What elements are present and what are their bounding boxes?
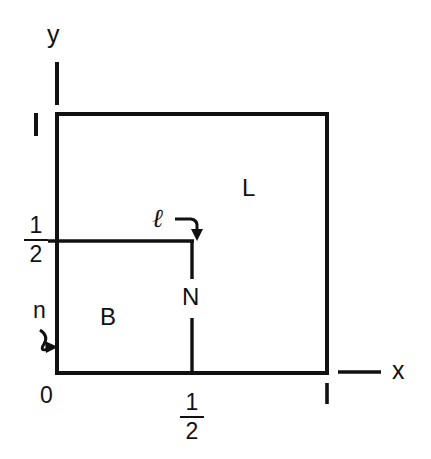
interface-label-N: N xyxy=(182,285,199,309)
y-tick-half-numerator: 1 xyxy=(28,214,45,237)
x-tick-half: 1 2 xyxy=(180,391,204,444)
x-axis-label: x xyxy=(392,358,405,383)
ell-arrow-head-icon xyxy=(191,229,203,241)
y-tick-half: 1 2 xyxy=(24,214,48,267)
x-tick-half-numerator: 1 xyxy=(184,391,201,414)
geometry-figure: y x 0 1 2 1 2 L B N ℓ n xyxy=(0,0,431,459)
y-axis-label: y xyxy=(47,22,60,47)
ell-annotation-label: ℓ xyxy=(152,206,163,232)
origin-label: 0 xyxy=(40,384,53,407)
region-label-B: B xyxy=(100,305,116,329)
y-tick-half-denominator: 2 xyxy=(28,243,45,266)
figure-linework xyxy=(0,0,431,459)
region-label-L: L xyxy=(242,176,255,200)
n-annotation-label: n xyxy=(33,299,46,322)
x-tick-half-denominator: 2 xyxy=(184,420,201,443)
